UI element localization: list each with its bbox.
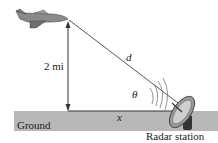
distance-line: [69, 20, 178, 103]
radar-station-label: Radar station: [146, 131, 204, 142]
x-label: x: [117, 112, 122, 123]
height-arrow: [66, 21, 71, 111]
ground-label: Ground: [17, 120, 51, 131]
angle-label: θ: [132, 89, 137, 100]
airplane-icon: [16, 9, 68, 28]
height-label: 2 mi: [44, 61, 64, 72]
radar-waves: [150, 78, 168, 110]
distance-label: d: [126, 52, 132, 63]
